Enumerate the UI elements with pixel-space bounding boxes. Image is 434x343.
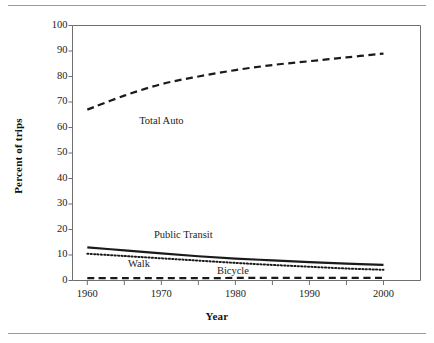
series-label-public-transit: Public Transit	[154, 229, 213, 240]
series-label-total-auto: Total Auto	[139, 115, 183, 126]
series-line-total-auto	[87, 54, 383, 110]
x-tick-label: 1970	[139, 288, 183, 299]
x-axis-title: Year	[0, 310, 434, 322]
y-tick-label: 30	[42, 197, 68, 208]
x-tick-label: 1980	[213, 288, 257, 299]
y-tick-label: 40	[42, 172, 68, 183]
series-label-bicycle: Bicycle	[217, 265, 249, 276]
x-tick-label: 2000	[361, 288, 405, 299]
series-label-walk: Walk	[128, 258, 150, 269]
y-tick-label: 10	[42, 248, 68, 259]
y-tick-label: 0	[42, 274, 68, 285]
figure-container: Percent of trips Year 010203040506070809…	[0, 0, 434, 343]
y-tick-label: 100	[42, 19, 68, 30]
y-tick-label: 90	[42, 44, 68, 55]
y-tick-label: 20	[42, 223, 68, 234]
y-tick-label: 70	[42, 95, 68, 106]
y-tick-label: 60	[42, 121, 68, 132]
x-tick-label: 1960	[65, 288, 109, 299]
plot-frame	[73, 26, 421, 281]
y-tick-label: 80	[42, 70, 68, 81]
y-axis-title: Percent of trips	[12, 111, 24, 201]
x-tick-label: 1990	[287, 288, 331, 299]
y-tick-label: 50	[42, 146, 68, 157]
